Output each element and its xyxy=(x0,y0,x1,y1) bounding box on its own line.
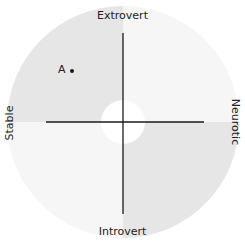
axis-label-introvert: Introvert xyxy=(0,225,245,238)
axis-label-stable: Stable xyxy=(3,106,16,141)
point-a-label: A xyxy=(58,63,66,76)
quadrant-introvert-stable xyxy=(7,122,123,238)
quadrant-diagram xyxy=(0,0,245,248)
axis-label-extrovert: Extrovert xyxy=(0,9,245,22)
quadrant-introvert-neurotic xyxy=(123,122,239,238)
quadrant-extrovert-neurotic xyxy=(123,6,239,122)
axis-label-neurotic: Neurotic xyxy=(229,99,242,145)
point-a-marker xyxy=(70,69,74,73)
